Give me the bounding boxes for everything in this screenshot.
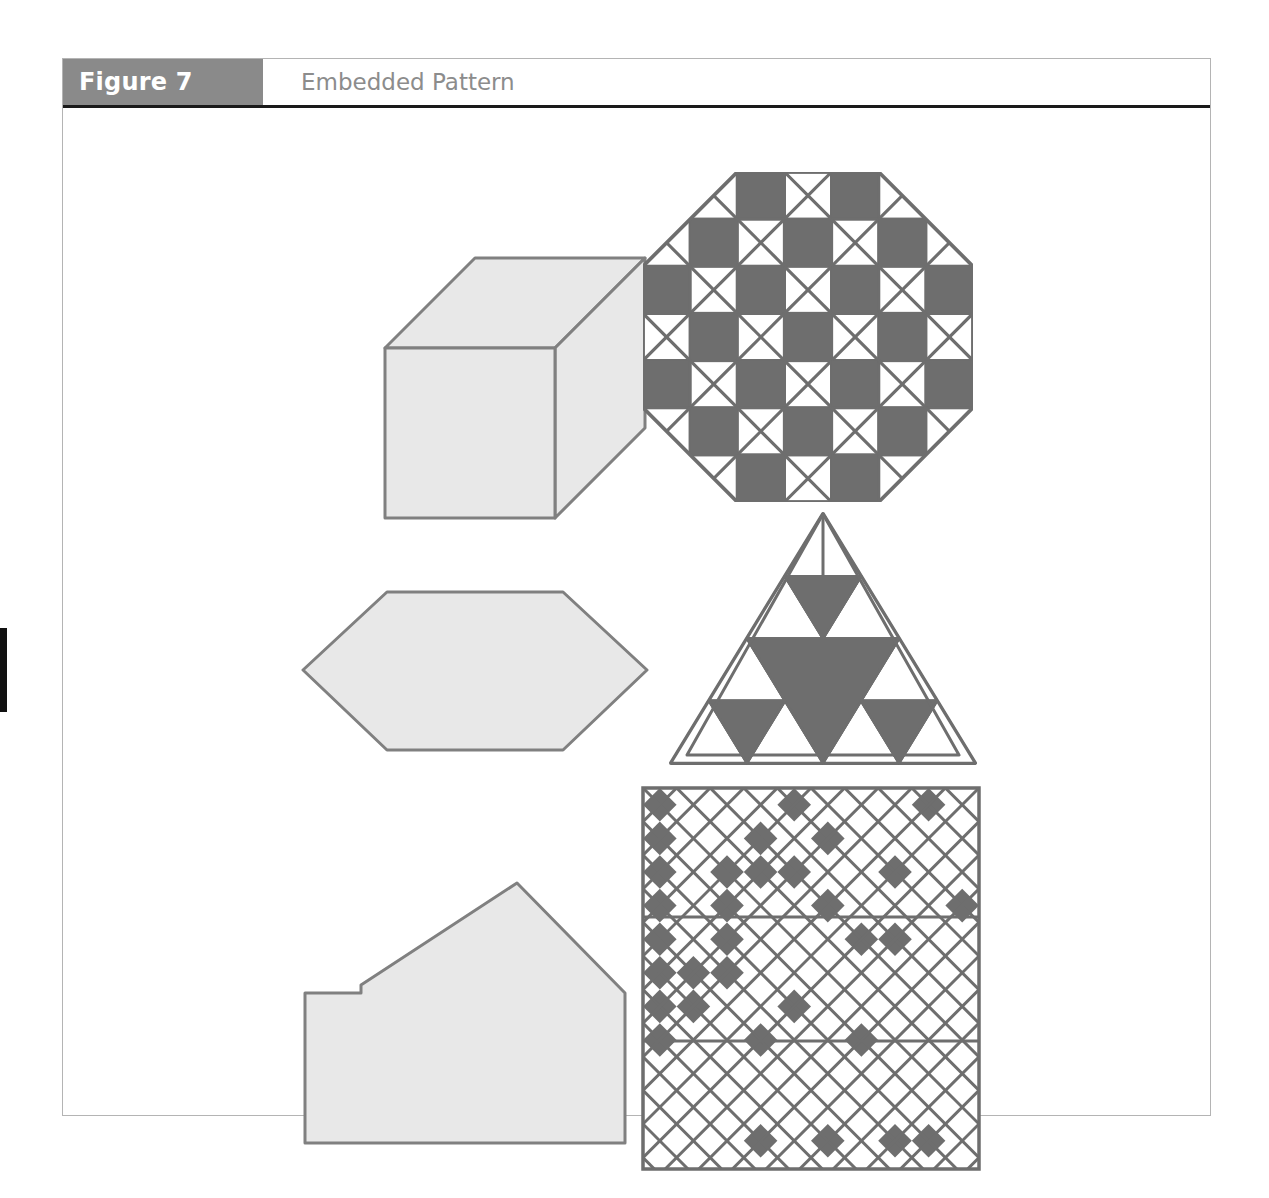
octagon-dark-cell <box>737 455 784 502</box>
hexagon-body <box>303 592 647 750</box>
octagon-dark-cell <box>926 266 973 313</box>
octagon-dark-cell <box>690 313 737 360</box>
octagon-dark-cell <box>784 408 831 455</box>
octagon-dark-cell <box>879 313 926 360</box>
octagon-dark-cell <box>926 172 973 219</box>
octagon-dark-cell <box>832 455 879 502</box>
octagon-dark-cell <box>832 172 879 219</box>
octagon-cells <box>643 172 973 502</box>
figure-title: Embedded Pattern <box>263 59 1210 105</box>
octagon-dark-cell <box>784 219 831 266</box>
page-edge-tab-marker <box>0 628 7 712</box>
figure-number-label: Figure 7 <box>63 59 263 105</box>
octagon-dark-cell <box>926 361 973 408</box>
octagon-dark-cell <box>643 266 690 313</box>
octagon-dark-cell <box>832 266 879 313</box>
shape-subdivided-triangle-pattern <box>663 506 983 771</box>
shape-elongated-hexagon <box>295 570 665 770</box>
octagon-dark-cell <box>879 408 926 455</box>
octagon-dark-cell <box>832 361 879 408</box>
octagon-dark-cell <box>737 361 784 408</box>
figure-body-canvas <box>63 108 1210 1115</box>
octagon-dark-cell <box>643 455 690 502</box>
shape-irregular-house-polygon <box>295 873 645 1163</box>
figure-header: Figure 7 Embedded Pattern <box>63 59 1210 105</box>
octagon-dark-cell <box>737 172 784 219</box>
house-body <box>305 883 625 1143</box>
box-front-face <box>385 348 555 518</box>
octagon-dark-cell <box>643 361 690 408</box>
octagon-dark-cell <box>737 266 784 313</box>
figure-frame: Figure 7 Embedded Pattern <box>62 58 1211 1116</box>
shape-diamond-lattice-square-pattern <box>641 786 981 1171</box>
octagon-dark-cell <box>643 172 690 219</box>
octagon-dark-cell <box>690 408 737 455</box>
octagon-dark-cell <box>879 219 926 266</box>
shape-three-dimensional-rectangular-box <box>325 228 665 538</box>
octagon-dark-cell <box>784 313 831 360</box>
shape-octagon-checkerboard-pattern <box>643 172 973 502</box>
octagon-dark-cell <box>690 219 737 266</box>
octagon-dark-cell <box>926 455 973 502</box>
